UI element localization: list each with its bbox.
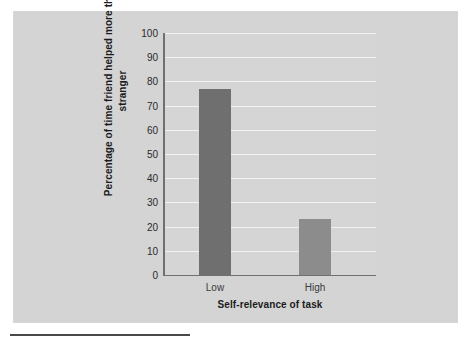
- y-tick-label-40: 40: [147, 173, 158, 184]
- y-axis-line: [163, 33, 165, 275]
- y-tick-label-30: 30: [147, 197, 158, 208]
- y-tick-label-10: 10: [147, 245, 158, 256]
- y-tick-label-20: 20: [147, 221, 158, 232]
- gridline-90: [164, 57, 376, 58]
- figure-panel: Percentage of time friend helped more th…: [13, 11, 458, 323]
- y-tick-label-60: 60: [147, 124, 158, 135]
- plot-area: 1009080706050403020100 LowHigh: [164, 33, 376, 275]
- gridline-70: [164, 106, 376, 107]
- gridline-20: [164, 227, 376, 228]
- bar-high: [299, 219, 331, 275]
- x-tick-label-high: High: [285, 282, 345, 293]
- gridline-40: [164, 178, 376, 179]
- y-tick-label-70: 70: [147, 100, 158, 111]
- y-tick-label-90: 90: [147, 52, 158, 63]
- x-axis-title: Self-relevance of task: [164, 299, 376, 310]
- y-tick-label-100: 100: [141, 28, 158, 39]
- bar-low: [199, 89, 231, 275]
- y-axis-title: Percentage of time friend helped more th…: [96, 0, 136, 206]
- gridline-60: [164, 130, 376, 131]
- x-axis-line: [163, 275, 376, 277]
- bottom-rule: [10, 334, 190, 336]
- gridline-50: [164, 154, 376, 155]
- gridline-10: [164, 251, 376, 252]
- y-axis-title-text: Percentage of time friend helped more th…: [102, 0, 130, 206]
- y-tick-label-50: 50: [147, 149, 158, 160]
- y-tick-label-80: 80: [147, 76, 158, 87]
- x-tick-label-low: Low: [185, 282, 245, 293]
- y-tick-label-0: 0: [152, 270, 158, 281]
- gridline-100: [164, 33, 376, 34]
- gridline-30: [164, 202, 376, 203]
- gridline-80: [164, 81, 376, 82]
